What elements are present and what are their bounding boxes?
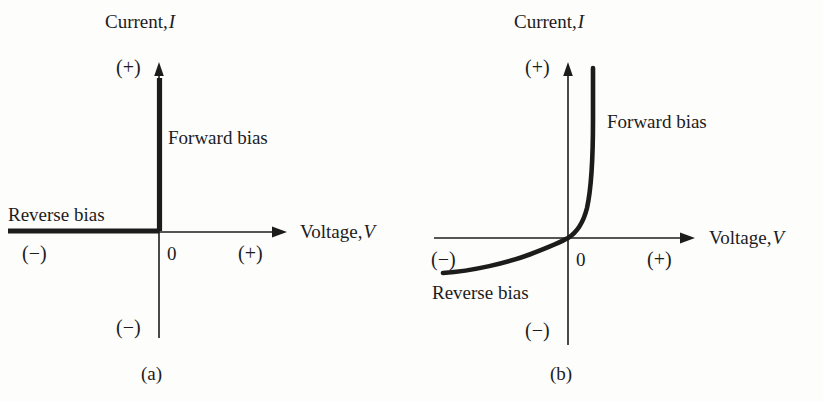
y-axis-title-text-a: Current,: [105, 11, 168, 32]
real-diode-curve-b: [443, 68, 593, 273]
y-axis-title-a: Current,I: [105, 12, 175, 31]
panel-a-plot: [0, 0, 412, 401]
reverse-bias-label-a: Reverse bias: [8, 205, 105, 224]
forward-bias-label-b: Forward bias: [607, 112, 707, 131]
y-axis-symbol-b: I: [577, 11, 584, 32]
forward-bias-label-a: Forward bias: [168, 128, 268, 147]
x-axis-symbol-a: V: [362, 221, 375, 242]
y-axis-negative-sign-b: (−): [525, 320, 550, 340]
y-axis-symbol-a: I: [168, 11, 175, 32]
x-axis-negative-sign-a: (−): [22, 243, 47, 263]
origin-label-a: 0: [167, 244, 177, 263]
panel-caption-b: (b): [550, 364, 572, 383]
y-axis-title-text-b: Current,: [514, 11, 577, 32]
y-axis-b: [563, 62, 573, 345]
diode-iv-figure: Current,I (+) (−) Voltage,V (−) 0 (+) Fo…: [0, 0, 823, 401]
y-axis-title-b: Current,I: [514, 12, 584, 31]
reverse-bias-label-b: Reverse bias: [432, 283, 529, 302]
x-axis-positive-sign-b: (+): [647, 249, 672, 269]
y-axis-positive-sign-a: (+): [116, 57, 141, 77]
panel-b: Current,I (+) (−) Voltage,V (−) 0 (+) Fo…: [411, 0, 823, 401]
panel-caption-a: (a): [141, 364, 162, 383]
panel-b-plot: [411, 0, 823, 401]
x-axis-positive-sign-a: (+): [238, 243, 263, 263]
y-axis-negative-sign-a: (−): [116, 317, 141, 337]
y-axis-positive-sign-b: (+): [525, 57, 550, 77]
x-axis-symbol-b: V: [771, 227, 784, 248]
x-axis-title-b: Voltage,V: [709, 228, 784, 247]
x-axis-title-text-b: Voltage,: [709, 227, 771, 248]
x-axis-title-text-a: Voltage,: [300, 221, 362, 242]
x-axis-negative-sign-b: (−): [431, 249, 456, 269]
x-axis-title-a: Voltage,V: [300, 222, 375, 241]
origin-label-b: 0: [576, 250, 586, 269]
panel-a: Current,I (+) (−) Voltage,V (−) 0 (+) Fo…: [0, 0, 412, 401]
